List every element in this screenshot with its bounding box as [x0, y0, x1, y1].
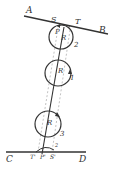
label-small-2: 2 [54, 142, 58, 148]
label-s: S [51, 15, 57, 24]
label-t: T [75, 17, 81, 26]
label-t-prime: T' [30, 153, 36, 160]
label-p: P [54, 28, 60, 36]
arrowhead-icon [55, 112, 60, 117]
label-r-middle: R [57, 67, 64, 75]
line-ab [24, 16, 108, 34]
label-r-bottom: R [46, 119, 53, 127]
mechanism-diagram: A B S T P R 2 R 1 R 3 2 C D T' P' S' [0, 0, 116, 170]
label-b: B [98, 25, 106, 35]
label-r-top: R [60, 34, 67, 42]
label-d: D [78, 154, 86, 164]
label-p-prime: P' [39, 153, 46, 160]
diagram-svg: A B S T P R 2 R 1 R 3 2 C D T' P' S' [0, 0, 116, 170]
label-circle-2: 2 [73, 41, 79, 49]
label-s-prime: S' [50, 153, 56, 160]
label-circle-3: 3 [60, 130, 65, 138]
label-circle-1: 1 [70, 74, 74, 82]
label-a: A [25, 5, 33, 15]
label-c: C [6, 154, 13, 164]
